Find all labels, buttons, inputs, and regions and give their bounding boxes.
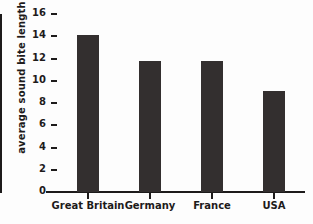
x-axis-tick xyxy=(273,193,275,199)
x-axis-tick xyxy=(87,193,89,199)
y-axis-tick-label: 14 xyxy=(20,29,46,40)
bar xyxy=(263,91,285,192)
bar xyxy=(201,61,223,192)
bar xyxy=(139,61,161,192)
x-axis-tick-label: Germany xyxy=(125,200,176,211)
bar xyxy=(77,35,99,192)
x-axis-tick xyxy=(149,193,151,199)
bar-chart: average sound bite length 0246810121416 … xyxy=(0,0,313,224)
bars-layer xyxy=(57,14,305,192)
y-axis-line xyxy=(0,14,2,193)
y-axis-tick-label: 12 xyxy=(20,52,46,63)
x-axis-tick xyxy=(211,193,213,199)
y-axis-tick-label: 8 xyxy=(20,96,46,107)
y-axis-tick-label: 10 xyxy=(20,74,46,85)
x-axis-tick-label: USA xyxy=(262,200,285,211)
y-axis-tick-label: 4 xyxy=(20,141,46,152)
y-axis-tick-label: 6 xyxy=(20,118,46,129)
x-axis-tick-label: Great Britain xyxy=(52,200,125,211)
y-axis-tick-label: 2 xyxy=(20,163,46,174)
y-axis-tick-label: 16 xyxy=(20,7,46,18)
y-axis-tick-label: 0 xyxy=(20,185,46,196)
x-axis-tick-label: France xyxy=(193,200,231,211)
